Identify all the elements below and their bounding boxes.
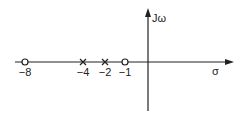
imaginary-axis-arrow-icon bbox=[145, 8, 151, 17]
zero-label: −8 bbox=[19, 66, 32, 78]
pole-zero-diagram: Jω σ −8 −4 −2 −1 bbox=[0, 0, 244, 116]
pole-label: −4 bbox=[77, 66, 90, 78]
real-axis-arrow-icon bbox=[225, 59, 234, 65]
zero-marker-icon bbox=[122, 59, 128, 65]
imaginary-axis-label: Jω bbox=[152, 12, 167, 24]
zero-label: −1 bbox=[119, 66, 132, 78]
zero-marker-icon bbox=[22, 59, 28, 65]
real-axis-label: σ bbox=[212, 65, 219, 77]
pole-label: −2 bbox=[99, 66, 112, 78]
